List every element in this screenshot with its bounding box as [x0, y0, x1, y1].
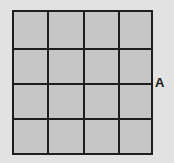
- four-by-four-grid: [12, 10, 153, 155]
- point-label-a: A: [155, 76, 164, 89]
- grid-horizontal-line-3: [14, 118, 151, 120]
- grid-horizontal-line-2: [14, 83, 151, 85]
- grid-horizontal-line-1: [14, 48, 151, 50]
